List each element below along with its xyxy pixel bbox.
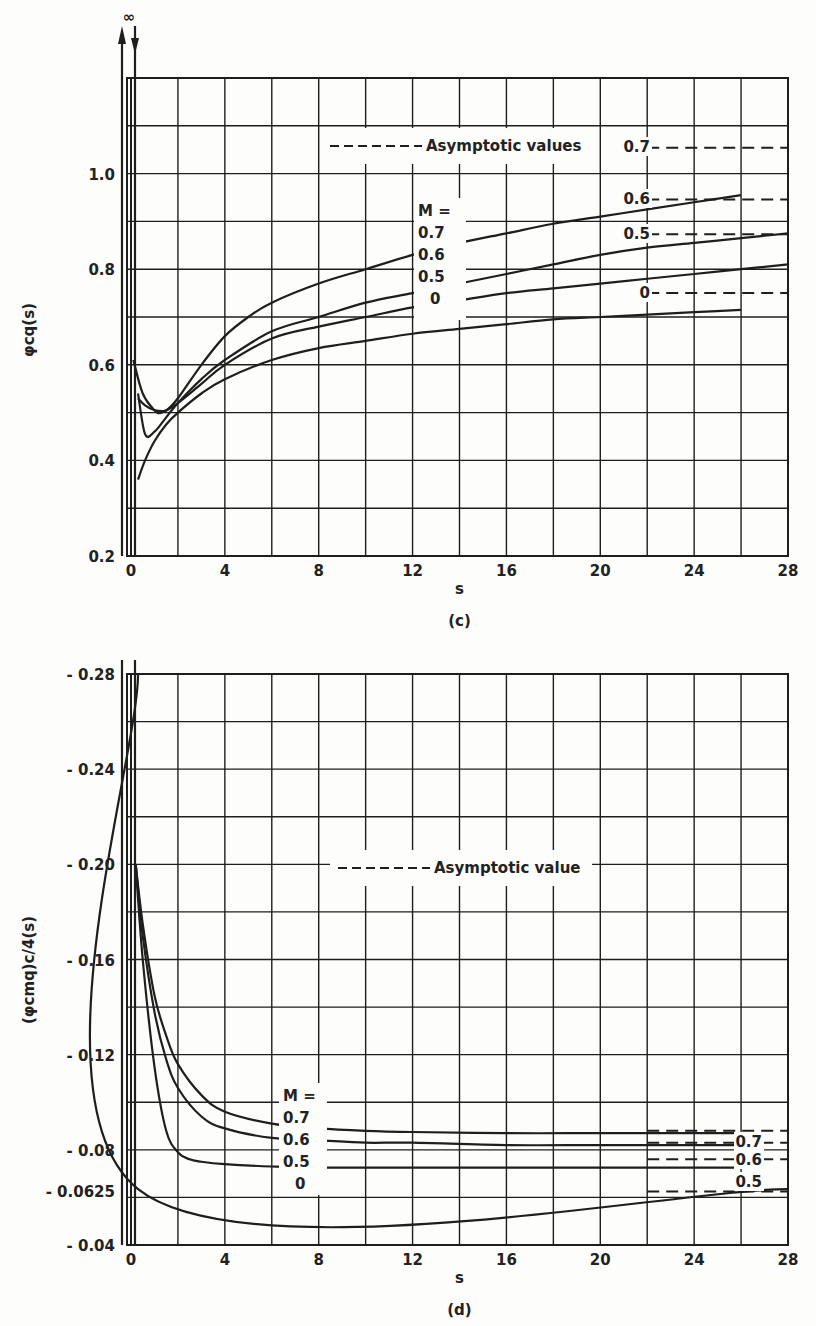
curve-m-0_7 xyxy=(136,864,741,1133)
legend-label: Asymptotic value xyxy=(434,859,580,877)
svg-text:0.8: 0.8 xyxy=(88,261,115,279)
svg-text:- 0.12: - 0.12 xyxy=(67,1047,115,1065)
svg-text:28: 28 xyxy=(778,562,799,580)
mach-labels: M =0.70.60.50 xyxy=(414,198,466,320)
svg-text:- 0.0625: - 0.0625 xyxy=(46,1183,115,1201)
mach-labels: M =0.70.60.50 xyxy=(279,1083,327,1195)
svg-text:16: 16 xyxy=(496,1251,517,1269)
svg-text:M =: M = xyxy=(418,202,451,220)
svg-text:24: 24 xyxy=(684,1251,705,1269)
svg-text:0.2: 0.2 xyxy=(88,548,115,566)
curve-m-0_5 xyxy=(136,864,741,1167)
svg-text:- 0.20: - 0.20 xyxy=(67,856,115,874)
chart-d: ∞Asymptotic valueM =0.70.60.500.70.60.5-… xyxy=(0,660,816,1326)
y-axis-label: φcq(s) xyxy=(20,303,38,357)
x-axis-label: s xyxy=(455,1269,464,1287)
svg-text:- 0.24: - 0.24 xyxy=(67,761,115,779)
y-axis: - 0.28- 0.24- 0.20- 0.16- 0.12- 0.08- 0.… xyxy=(46,666,115,1255)
svg-text:20: 20 xyxy=(590,1251,611,1269)
asymptote-label: 0.5 xyxy=(735,1173,762,1191)
mach-label: 0 xyxy=(430,290,440,308)
asymptote-label: 0.5 xyxy=(623,225,650,243)
infinity-label: ∞ xyxy=(123,8,136,26)
x-axis: 0481216202428 xyxy=(126,562,799,580)
svg-text:8: 8 xyxy=(313,1251,323,1269)
asymptote-label: 0.7 xyxy=(735,1133,762,1151)
mach-label: 0 xyxy=(295,1175,305,1193)
asymptote-label: 0.6 xyxy=(623,190,650,208)
svg-text:24: 24 xyxy=(684,562,705,580)
x-axis: 0481216202428 xyxy=(126,1251,799,1269)
series xyxy=(90,674,788,1227)
asymptote-label: 0 xyxy=(640,284,650,302)
legend-label: Asymptotic values xyxy=(426,137,581,155)
y-axis-label: (φcmq)c/4(s) xyxy=(20,916,38,1024)
svg-text:12: 12 xyxy=(402,562,423,580)
svg-text:- 0.04: - 0.04 xyxy=(67,1237,115,1255)
figure-caption: (c) xyxy=(448,612,471,630)
chart-c: ∞Asymptotic valuesM =0.70.60.500.70.60.5… xyxy=(0,0,816,660)
asymptote-label: 0.7 xyxy=(623,138,650,156)
mach-label: 0.7 xyxy=(418,224,445,242)
svg-text:4: 4 xyxy=(220,562,230,580)
svg-text:8: 8 xyxy=(313,562,323,580)
svg-text:0: 0 xyxy=(126,1251,136,1269)
svg-text:16: 16 xyxy=(496,562,517,580)
legend: Asymptotic value xyxy=(330,850,592,886)
mach-label: 0.5 xyxy=(418,268,445,286)
legend: Asymptotic values xyxy=(322,128,594,164)
svg-text:12: 12 xyxy=(402,1251,423,1269)
infinity-arrows: ∞ xyxy=(118,8,139,556)
svg-text:- 0.16: - 0.16 xyxy=(67,952,115,970)
svg-text:0.6: 0.6 xyxy=(88,357,115,375)
svg-text:- 0.28: - 0.28 xyxy=(67,666,115,684)
svg-text:M =: M = xyxy=(283,1087,316,1105)
svg-text:0: 0 xyxy=(126,562,136,580)
y-axis: 0.20.40.60.81.0 xyxy=(88,166,115,566)
svg-text:4: 4 xyxy=(220,1251,230,1269)
svg-text:28: 28 xyxy=(778,1251,799,1269)
figure-caption: (d) xyxy=(447,1301,471,1319)
curve-m-0 xyxy=(138,310,741,480)
mach-label: 0.5 xyxy=(283,1153,310,1171)
x-axis-label: s xyxy=(455,580,464,598)
mach-label: 0.6 xyxy=(418,246,445,264)
mach-label: 0.7 xyxy=(283,1109,310,1127)
svg-text:20: 20 xyxy=(590,562,611,580)
asymptote-label: 0.6 xyxy=(735,1151,762,1169)
svg-text:- 0.08: - 0.08 xyxy=(67,1142,115,1160)
svg-text:1.0: 1.0 xyxy=(88,166,115,184)
svg-text:0.4: 0.4 xyxy=(88,452,115,470)
mach-label: 0.6 xyxy=(283,1131,310,1149)
curve-m-0_6 xyxy=(136,864,741,1145)
